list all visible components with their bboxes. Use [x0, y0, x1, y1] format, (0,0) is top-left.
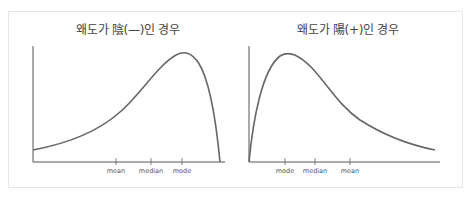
negative-skew-label-median: median — [139, 167, 163, 175]
positive-skew-label-mean: mean — [341, 167, 359, 175]
positive-skew-label-mode: mode — [276, 167, 294, 175]
negative-skew-label-mode: mode — [173, 167, 191, 175]
negative-skew-label-mean: mean — [107, 167, 125, 175]
positive-skew-label-median: median — [303, 167, 327, 175]
negative-skew-curve — [33, 53, 220, 162]
positive-skew-diagram: mode median mean — [249, 46, 440, 175]
skewness-diagrams: mean median mode mode median mean — [0, 0, 474, 199]
positive-skew-curve — [249, 54, 435, 162]
negative-skew-diagram: mean median mode — [33, 46, 225, 175]
